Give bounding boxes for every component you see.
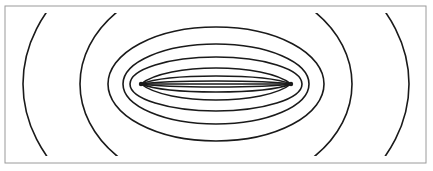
outer-field-arcs [23, 0, 409, 171]
outer-ellipse-1 [23, 0, 409, 171]
field-lines-diagram [0, 0, 433, 171]
outer-ellipse-2 [80, 0, 352, 171]
diagram-canvas [0, 0, 433, 171]
focus-point-1 [139, 82, 143, 86]
focus-point-2 [289, 82, 293, 86]
